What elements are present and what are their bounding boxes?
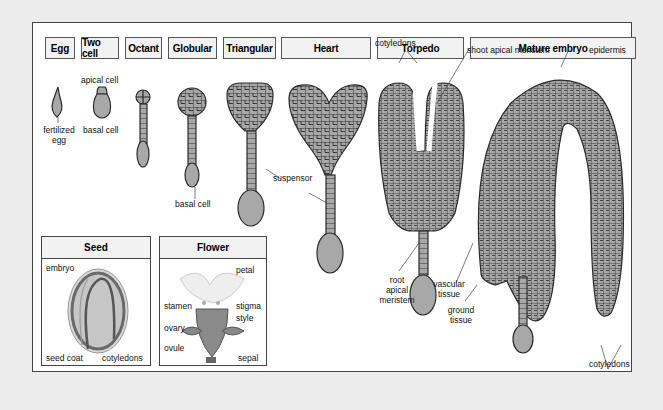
seed-label-seed-coat: seed coat xyxy=(46,353,83,363)
embryo-development-diagram: Egg Two cell Octant Globular Triangular … xyxy=(32,22,632,372)
label-shoot-apical-meristem: shoot apical meristem xyxy=(467,45,550,55)
flower-label-petal: petal xyxy=(236,265,254,275)
fertilized-egg-shape xyxy=(52,87,62,117)
label-basal-cell-two-cell: basal cell xyxy=(83,125,118,135)
label-line: tissue xyxy=(429,289,469,299)
flower-label-sepal: sepal xyxy=(238,353,258,363)
label-line: fertilized xyxy=(39,125,79,135)
label-apical-cell: apical cell xyxy=(81,75,118,85)
flower-label-ovule: ovule xyxy=(164,343,184,353)
label-line: vascular xyxy=(429,279,469,289)
label-epidermis: epidermis xyxy=(589,45,626,55)
label-root-apical-meristem: root apical meristem xyxy=(375,275,419,305)
label-line: egg xyxy=(39,135,79,145)
label-cotyledons-mature: cotyledons xyxy=(589,359,630,369)
seed-label-cotyledons: cotyledons xyxy=(102,353,143,363)
two-cell-apical xyxy=(97,87,107,94)
flower-label-stamen: stamen xyxy=(164,301,192,311)
label-suspensor: suspensor xyxy=(273,173,312,183)
seed-illustration xyxy=(42,259,150,365)
triangular-proembryo xyxy=(227,83,273,131)
label-line: ground xyxy=(443,305,479,315)
label-line: root xyxy=(375,275,419,285)
flower-label-style: style xyxy=(236,313,253,323)
seed-inset: Seed embryo seed coat cotyledons xyxy=(41,236,151,366)
flower-label-ovary: ovary xyxy=(164,323,185,333)
label-basal-cell-globular: basal cell xyxy=(175,199,210,209)
label-line: apical xyxy=(375,285,419,295)
two-cell-basal xyxy=(93,94,110,118)
globular-proembryo xyxy=(178,88,206,116)
label-cotyledons-torpedo: cotyledons xyxy=(375,38,416,48)
seed-label-embryo: embryo xyxy=(46,263,74,273)
flower-inset-title: Flower xyxy=(160,237,266,259)
flower-inset: Flower petal stamen stigma style ovary o… xyxy=(159,236,267,366)
seed-inset-title: Seed xyxy=(42,237,150,259)
label-vascular-tissue: vascular tissue xyxy=(429,279,469,299)
label-ground-tissue: ground tissue xyxy=(443,305,479,325)
torpedo-embryo xyxy=(379,83,464,231)
heart-embryo xyxy=(289,85,367,175)
label-line: meristem xyxy=(375,295,419,305)
mature-embryo xyxy=(478,80,623,321)
label-fertilized-egg: fertilized egg xyxy=(39,125,79,145)
flower-label-stigma: stigma xyxy=(236,301,261,311)
label-line: tissue xyxy=(443,315,479,325)
